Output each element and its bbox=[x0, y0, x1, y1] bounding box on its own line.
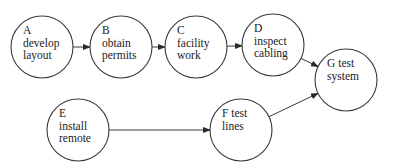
nodes: AdeveloplayoutBobtainpermitsCfacilitywor… bbox=[11, 14, 377, 161]
node-f: F testlines bbox=[210, 99, 272, 161]
node-label: E bbox=[59, 107, 66, 119]
edge-f-to-g-arrow bbox=[269, 93, 318, 116]
node-label: G test bbox=[327, 57, 355, 69]
node-label: B bbox=[102, 24, 110, 36]
node-g: G testsystem bbox=[315, 49, 377, 111]
node-label: layout bbox=[23, 49, 53, 62]
node-c: Cfacilitywork bbox=[165, 16, 227, 78]
edge-d-to-g-arrow bbox=[301, 58, 318, 66]
node-label: remote bbox=[59, 132, 91, 144]
node-label: lines bbox=[222, 120, 244, 132]
node-label: C bbox=[177, 24, 185, 36]
node-label: D bbox=[254, 22, 262, 34]
node-b: Bobtainpermits bbox=[90, 16, 152, 78]
node-label: obtain bbox=[102, 37, 131, 49]
node-label: permits bbox=[102, 49, 137, 62]
node-label: develop bbox=[23, 37, 60, 50]
node-a: Adeveloplayout bbox=[11, 16, 73, 78]
node-label: work bbox=[177, 49, 201, 61]
node-label: install bbox=[59, 120, 87, 132]
node-label: cabling bbox=[254, 47, 288, 60]
node-label: facility bbox=[177, 37, 210, 50]
node-label: F test bbox=[222, 107, 248, 119]
node-e: Einstallremote bbox=[47, 99, 109, 161]
node-label: inspect bbox=[254, 35, 287, 48]
node-d: Dinspectcabling bbox=[242, 14, 304, 76]
activity-network-diagram: AdeveloplayoutBobtainpermitsCfacilitywor… bbox=[0, 0, 396, 166]
node-label: A bbox=[23, 24, 32, 36]
node-label: system bbox=[327, 70, 359, 83]
